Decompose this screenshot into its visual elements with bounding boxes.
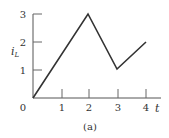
x-axis-label: t [155,102,160,115]
x-tick-label-1: 1 [59,102,65,113]
origin-label: 0 [20,102,26,113]
x-tick-label-2: 2 [86,102,92,113]
chart-canvas: 3 2 1 0 1 2 3 4 iL t (a) [0,0,169,138]
x-tick-label-3: 3 [115,102,121,113]
y-tick-label-2: 2 [20,37,26,48]
x-tick-label-4: 4 [143,102,149,113]
y-axis-label: iL [11,45,20,59]
y-tick-label-1: 1 [20,65,26,76]
series-line-iL [33,14,146,98]
y-tick-label-3: 3 [20,9,26,20]
figure-caption: (a) [83,121,97,132]
